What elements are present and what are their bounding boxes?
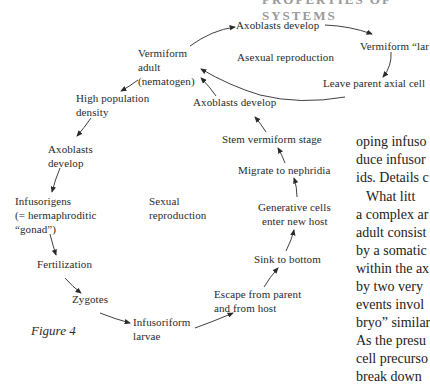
node-line: reproduction (149, 209, 206, 223)
node-line: develop (48, 157, 84, 171)
node-line: larvae (133, 330, 160, 344)
node-migrate-to-nephridia: Migrate to nephridia (238, 164, 330, 178)
text-line: ids. Details c (356, 169, 429, 188)
node-line: enter new host (262, 215, 328, 229)
node-line: density (76, 106, 108, 120)
label-asexual-reproduction: Asexual reproduction (237, 51, 334, 65)
node-zygotes: Zygotes (72, 293, 108, 307)
node-axoblasts-develop-right: Axoblasts develop (193, 96, 276, 110)
node-line: (nematogen) (138, 75, 195, 89)
node-line: Infusoriform (133, 316, 190, 330)
node-vermiform-larva: Vermiform “lar (360, 40, 429, 54)
text-line: within the ax (356, 260, 429, 279)
figure-caption: Figure 4 (31, 323, 76, 339)
text-line: events invol (356, 296, 424, 315)
node-line: Sexual (149, 195, 180, 209)
node-line: Escape from parent (214, 288, 301, 302)
text-line: cell precurso (356, 350, 428, 369)
node-axoblasts-develop-top: Axoblasts develop (236, 19, 319, 33)
node-line: Axoblasts (48, 143, 93, 157)
node-line: High population (76, 92, 149, 106)
text-line: by two very (356, 278, 423, 297)
node-line: “gonad”) (15, 223, 56, 237)
text-line: What litt (366, 188, 415, 207)
node-line: Infusorigens (15, 195, 71, 209)
node-leave-parent-axial-cell: Leave parent axial cell (323, 77, 425, 91)
node-line: Generative cells (258, 201, 331, 215)
node-sink-to-bottom: Sink to bottom (254, 253, 321, 267)
text-line: adult consist (356, 224, 426, 243)
text-line: oping infuso (356, 133, 426, 152)
text-line: bryo” similar (356, 314, 430, 333)
text-line: duce infusor (356, 151, 426, 170)
node-line: Vermiform (138, 47, 187, 61)
node-fertilization: Fertilization (37, 258, 92, 272)
node-stem-vermiform-stage: Stem vermiform stage (222, 133, 322, 147)
text-line: by a somatic (356, 242, 427, 261)
node-line: and from host (214, 302, 276, 316)
node-line: adult (138, 61, 161, 75)
text-line: break down (356, 368, 422, 385)
node-line: (= hermaphroditic (15, 209, 97, 223)
text-line: a complex ar (356, 206, 428, 225)
text-line: As the presu (356, 332, 426, 351)
